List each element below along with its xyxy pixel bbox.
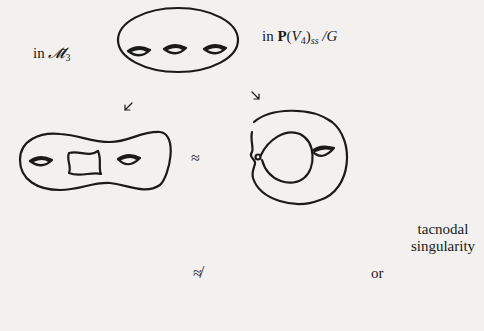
arrow-top-right	[252, 92, 259, 99]
projective-symbol: P	[277, 28, 286, 44]
degenerating-surface-right	[251, 111, 347, 204]
label-prefix: in	[262, 28, 274, 44]
label-prefix: in	[33, 45, 45, 61]
relation-not-approx: ≉	[193, 265, 202, 281]
annotation-line-2: singularity	[405, 238, 481, 255]
label-moduli-space: in 𝓜̄3	[33, 46, 70, 63]
vector-space-symbol: V	[292, 28, 301, 44]
moduli-symbol: 𝓜̄	[48, 45, 65, 61]
arrow-top-left	[125, 103, 132, 110]
genus3-surface	[118, 8, 238, 72]
group-quotient: /G	[322, 28, 337, 44]
label-quotient-space: in P(V4)ss /G	[262, 29, 337, 46]
semistable-subscript: ss	[311, 35, 319, 46]
degenerating-surface-left	[20, 132, 171, 190]
tacnodal-annotation: tacnodal singularity	[405, 221, 481, 255]
moduli-subscript: 3	[65, 52, 70, 63]
annotation-line-1: tacnodal	[405, 221, 481, 238]
diagram-canvas	[0, 0, 484, 331]
label-or: or	[371, 266, 384, 281]
relation-approx: ≈	[191, 150, 200, 166]
